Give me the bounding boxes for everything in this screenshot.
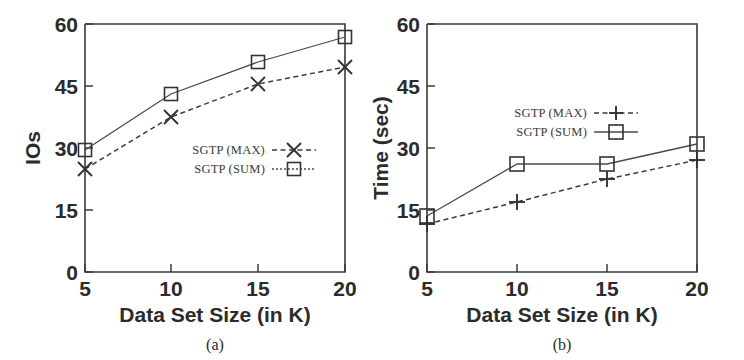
y-tick-label-15: 15 <box>55 199 79 222</box>
figure-container: 0 15 30 45 60 5 10 15 20 IOs Data Set Si… <box>0 0 744 360</box>
x-axis-ticks-a <box>85 264 345 272</box>
chart-svg-b: 0 15 30 45 60 5 10 15 20 Time (sec) Data… <box>372 0 744 360</box>
panel-caption-b: (b) <box>553 336 572 354</box>
legend-a: SGTP (MAX) SGTP (SUM) <box>192 143 316 176</box>
legend-label-sgtp-sum: SGTP (SUM) <box>516 125 587 139</box>
chart-panel-b: 0 15 30 45 60 5 10 15 20 Time (sec) Data… <box>372 0 744 360</box>
y-tick-label-45: 45 <box>55 75 79 98</box>
x-tick-label-5: 5 <box>421 277 433 300</box>
x-tick-label-15: 15 <box>246 277 270 300</box>
x-axis-title: Data Set Size (in K) <box>466 303 657 326</box>
legend-label-sgtp-max: SGTP (MAX) <box>514 106 587 120</box>
y-axis-ticks-b <box>427 24 435 272</box>
legend-marker-cross-plus-icon <box>609 106 623 120</box>
y-tick-label-60: 60 <box>397 13 420 36</box>
y-tick-label-45: 45 <box>397 75 421 98</box>
y-tick-label-30: 30 <box>55 137 78 160</box>
x-tick-label-5: 5 <box>79 277 91 300</box>
legend-label-sgtp-max: SGTP (MAX) <box>192 143 265 157</box>
x-tick-label-15: 15 <box>595 277 619 300</box>
chart-svg-a: 0 15 30 45 60 5 10 15 20 IOs Data Set Si… <box>0 0 372 360</box>
plot-frame-b <box>427 24 697 272</box>
y-tick-label-0: 0 <box>408 261 420 284</box>
y-axis-title: IOs <box>21 131 44 165</box>
legend-label-sgtp-sum: SGTP (SUM) <box>194 162 265 176</box>
x-tick-label-20: 20 <box>685 277 708 300</box>
y-tick-label-60: 60 <box>55 13 78 36</box>
x-tick-label-10: 10 <box>505 277 528 300</box>
x-axis-title: Data Set Size (in K) <box>119 303 310 326</box>
panel-caption-a: (a) <box>206 336 224 354</box>
y-tick-label-0: 0 <box>66 261 78 284</box>
y-tick-label-15: 15 <box>397 199 421 222</box>
series-sgtp-sum <box>420 137 704 223</box>
y-tick-label-30: 30 <box>397 137 420 160</box>
x-tick-label-20: 20 <box>333 277 356 300</box>
x-axis-ticks-b <box>427 264 697 272</box>
chart-panel-a: 0 15 30 45 60 5 10 15 20 IOs Data Set Si… <box>0 0 372 360</box>
series-sgtp-sum <box>79 31 352 157</box>
x-tick-label-10: 10 <box>159 277 182 300</box>
y-axis-title: Time (sec) <box>372 96 392 200</box>
legend-b: SGTP (MAX) SGTP (SUM) <box>514 106 638 139</box>
